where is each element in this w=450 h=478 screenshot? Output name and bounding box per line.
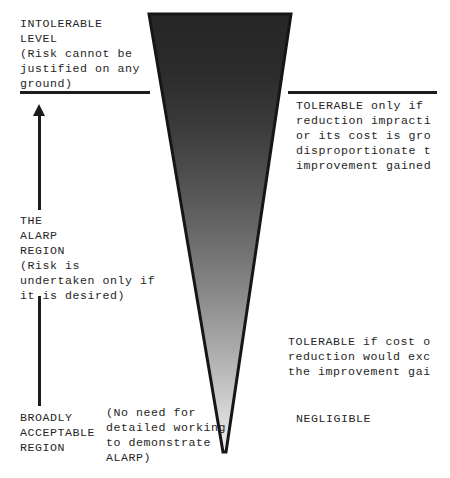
no-need-detailed-working-note: (No need for detailed working to demonst… [106, 405, 226, 465]
tolerable-lower-label: TOLERABLE if cost o reduction would exc … [288, 334, 431, 379]
alarp-arrow-shaft-upper [38, 115, 41, 210]
intolerable-level-label: INTOLERABLE LEVEL (Risk cannot be justif… [20, 16, 140, 91]
alarp-risk-triangle-diagram: INTOLERABLE LEVEL (Risk cannot be justif… [0, 0, 450, 478]
negligible-label: NEGLIGIBLE [296, 411, 371, 426]
broadly-acceptable-region-label: BROADLY ACCEPTABLE REGION [20, 410, 95, 455]
alarp-arrow-shaft-lower [38, 296, 41, 406]
alarp-region-label: THE ALARP REGION (Risk is undertaken onl… [20, 213, 155, 303]
intolerable-boundary-line-right [288, 91, 437, 94]
tolerable-upper-label: TOLERABLE only if reduction impracti or … [296, 98, 431, 173]
cone-body [149, 14, 291, 452]
intolerable-boundary-line-left [20, 91, 150, 94]
